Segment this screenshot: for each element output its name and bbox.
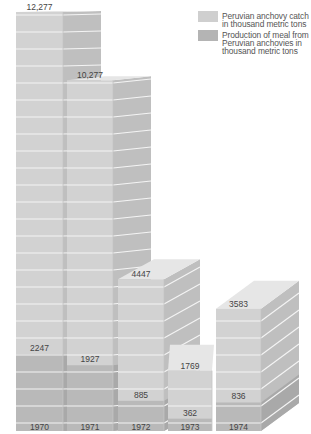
legend-swatch-meal bbox=[198, 30, 218, 41]
legend-item-catch: Peruvian anchovy catch in thousand metri… bbox=[198, 2, 311, 24]
meal-value-label: 362 bbox=[183, 408, 197, 418]
catch-value-label: 12,277 bbox=[27, 2, 53, 12]
legend-label-meal: Production of meal from Peruvian anchovi… bbox=[222, 31, 309, 55]
legend-swatch-catch bbox=[198, 11, 218, 22]
legend: Peruvian anchovy catch in thousand metri… bbox=[198, 2, 311, 46]
legend-item-meal: Production of meal from Peruvian anchovi… bbox=[198, 24, 311, 46]
meal-value-label: 885 bbox=[134, 390, 148, 400]
year-label: 1973 bbox=[181, 422, 200, 432]
meal-value-label: 2247 bbox=[30, 343, 49, 353]
meal-value-label: 836 bbox=[231, 391, 245, 401]
catch-value-label: 10,277 bbox=[77, 70, 103, 80]
bar-front-meal bbox=[16, 354, 63, 431]
year-label: 1971 bbox=[81, 422, 100, 432]
year-label: 1972 bbox=[132, 422, 151, 432]
anchovy-bar-chart: 12,2772247197010,27719271971444788519721… bbox=[0, 0, 311, 434]
catch-value-label: 1769 bbox=[181, 361, 200, 371]
meal-value-label: 1927 bbox=[81, 354, 100, 364]
catch-value-label: 4447 bbox=[132, 269, 151, 279]
catch-value-label: 3583 bbox=[229, 299, 248, 309]
year-label: 1974 bbox=[229, 422, 248, 432]
year-label: 1970 bbox=[30, 422, 49, 432]
